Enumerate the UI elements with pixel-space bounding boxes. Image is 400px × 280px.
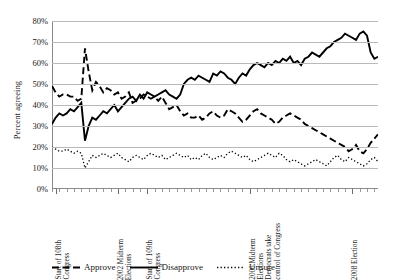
y-axis-tick-label: 40% [18, 101, 48, 110]
gridline [52, 126, 378, 127]
series-line-unsure [52, 147, 378, 168]
gridline [52, 21, 378, 22]
gridline [52, 84, 378, 85]
y-axis-tick-label: 10% [18, 164, 48, 173]
x-axis-tick [191, 189, 192, 192]
x-axis-tick [125, 189, 126, 192]
x-axis-tick [89, 189, 90, 192]
x-axis-tick [155, 189, 156, 192]
legend-item-disapprove: Disapprove [130, 262, 204, 272]
x-axis-tick [345, 189, 346, 192]
gridline [52, 42, 378, 43]
x-axis-tick [74, 189, 75, 192]
x-axis-tick [374, 189, 375, 192]
gridline [52, 105, 378, 106]
legend-label: Approve [84, 262, 116, 272]
series-line-approve [52, 48, 378, 153]
x-axis-tick [308, 189, 309, 192]
y-axis-tick-label: 0% [18, 185, 48, 194]
y-axis-tick-label: 70% [18, 38, 48, 47]
x-axis-tick [367, 189, 368, 192]
x-axis-tick [169, 189, 170, 192]
x-axis-tick [228, 189, 229, 192]
x-axis-tick [184, 189, 185, 192]
gridline [52, 63, 378, 64]
plot-area [52, 21, 378, 189]
x-axis-tick [323, 189, 324, 192]
x-axis-tick [67, 189, 68, 192]
series-line-disapprove [52, 32, 378, 141]
x-axis-tick [360, 189, 361, 192]
x-axis-tick [338, 189, 339, 192]
x-axis-tick [133, 189, 134, 192]
x-axis-tick [316, 189, 317, 192]
x-axis-tick [52, 189, 53, 192]
chart-container: Percent agreeing 0%10%20%30%40%50%60%70%… [0, 0, 400, 280]
x-axis-tick [199, 189, 200, 192]
x-axis-tick [330, 189, 331, 192]
legend-key-unsure-icon [217, 263, 245, 272]
y-axis-tick-label: 60% [18, 59, 48, 68]
legend-key-approve-icon [52, 263, 80, 272]
x-axis-tick [103, 189, 104, 192]
x-axis-tick [286, 189, 287, 192]
x-axis-tick [111, 189, 112, 192]
legend-label: Unsure [249, 262, 275, 272]
x-axis-tick [81, 189, 82, 192]
legend-item-approve: Approve [52, 262, 116, 272]
chart-legend: ApproveDisapproveUnsure [52, 258, 378, 276]
x-axis-tick [206, 189, 207, 192]
x-axis-tick [301, 189, 302, 192]
x-axis-tick [162, 189, 163, 192]
x-axis-tick [177, 189, 178, 192]
x-axis-tick [140, 189, 141, 192]
y-axis-tick-labels: 0%10%20%30%40%50%60%70%80% [16, 0, 48, 280]
x-axis-tick [272, 189, 273, 192]
legend-item-unsure: Unsure [217, 262, 275, 272]
x-axis-tick [235, 189, 236, 192]
x-axis-tick [59, 189, 60, 192]
gridline [52, 147, 378, 148]
gridline [52, 168, 378, 169]
y-axis-tick-label: 80% [18, 17, 48, 26]
legend-label: Disapprove [162, 262, 204, 272]
legend-key-disapprove-icon [130, 263, 158, 272]
x-axis-tick [220, 189, 221, 192]
y-axis-tick-label: 50% [18, 80, 48, 89]
x-axis-tick [264, 189, 265, 192]
x-axis-tick [279, 189, 280, 192]
y-axis-tick-label: 20% [18, 143, 48, 152]
x-axis-tick [213, 189, 214, 192]
x-axis-tick [96, 189, 97, 192]
x-axis-tick [294, 189, 295, 192]
x-axis-tick [257, 189, 258, 192]
x-axis-tick [242, 189, 243, 192]
y-axis-tick-label: 30% [18, 122, 48, 131]
